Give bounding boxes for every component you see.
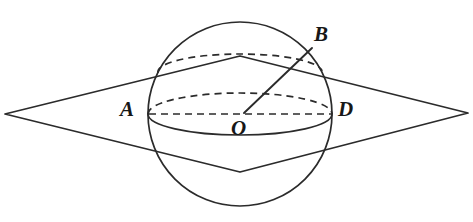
point-label-a: A xyxy=(120,99,134,120)
radius-segment-OB xyxy=(244,48,312,113)
point-label-d: D xyxy=(338,99,353,120)
geometry-canvas xyxy=(0,0,473,222)
geometry-diagram: A B D O xyxy=(0,0,473,222)
point-label-b: B xyxy=(314,24,328,45)
point-label-o: O xyxy=(231,118,246,139)
great-circle-back-arc xyxy=(148,93,332,114)
